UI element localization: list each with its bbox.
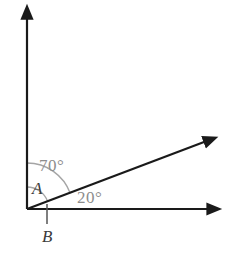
figure-canvas bbox=[0, 0, 236, 265]
diagonal-ray bbox=[27, 141, 206, 209]
angle-label-20: 20° bbox=[77, 189, 102, 206]
angle-label-70: 70° bbox=[39, 157, 64, 174]
geometry-figure: 70° 20° A B bbox=[0, 0, 236, 265]
point-label-a: A bbox=[32, 180, 42, 197]
point-label-b: B bbox=[42, 228, 52, 245]
